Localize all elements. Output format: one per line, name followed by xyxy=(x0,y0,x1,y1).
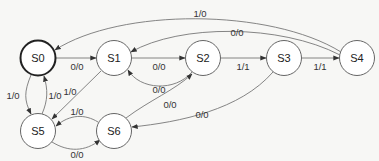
edge-s6-s5 xyxy=(56,116,98,126)
state-s5[interactable]: S5 xyxy=(21,114,56,149)
edge-label-s3-s6: 0/0 xyxy=(195,109,208,120)
state-s0[interactable]: S0 xyxy=(21,41,56,76)
state-label-s3: S3 xyxy=(277,52,290,64)
transitions: 1/0 0/0 0/0 0/0 0/0 1/1 1/1 1/0 1/0 1/0 … xyxy=(6,8,341,160)
state-s3[interactable]: S3 xyxy=(267,41,302,76)
edge-label-s1-s2: 0/0 xyxy=(152,61,165,72)
edge-label-s2-s1: 0/0 xyxy=(152,84,165,95)
state-diagram: 1/0 0/0 0/0 0/0 0/0 1/1 1/1 1/0 1/0 1/0 … xyxy=(0,0,379,161)
state-label-s2: S2 xyxy=(196,52,209,64)
edge-label-s6-s5: 1/0 xyxy=(70,106,83,117)
state-label-s6: S6 xyxy=(107,125,120,137)
edge-s0-s5 xyxy=(26,75,31,114)
state-s6[interactable]: S6 xyxy=(97,114,132,149)
state-s2[interactable]: S2 xyxy=(186,41,221,76)
edge-label-s5-s0: 1/0 xyxy=(48,90,61,101)
state-s4[interactable]: S4 xyxy=(340,41,375,76)
edge-s5-s0 xyxy=(42,76,47,114)
state-label-s1: S1 xyxy=(107,52,120,64)
state-s1[interactable]: S1 xyxy=(97,41,132,76)
edge-label-s1-s5: 1/0 xyxy=(63,86,76,97)
edge-label-s0-s5: 1/0 xyxy=(6,90,19,101)
state-label-s5: S5 xyxy=(31,125,44,137)
edge-label-s2-s3: 1/1 xyxy=(236,61,249,72)
edge-label-s0-s1: 0/0 xyxy=(70,61,83,72)
edge-label-s4-s1: 0/0 xyxy=(230,27,243,38)
state-label-s0: S0 xyxy=(31,52,44,64)
edge-label-s3-s4: 1/1 xyxy=(313,61,326,72)
edge-label-s6-s2: 0/0 xyxy=(163,99,176,110)
state-label-s4: S4 xyxy=(350,52,363,64)
edge-label-s5-s6: 0/0 xyxy=(70,149,83,160)
edge-label-s4-s0: 1/0 xyxy=(193,8,206,19)
